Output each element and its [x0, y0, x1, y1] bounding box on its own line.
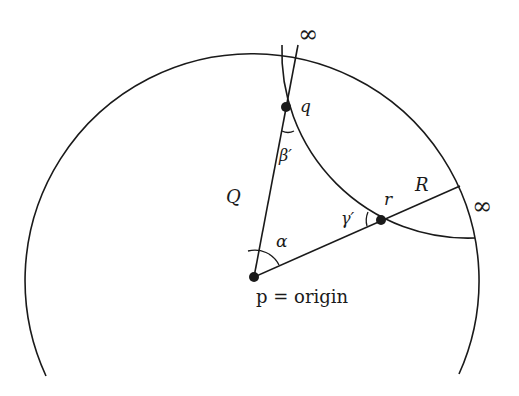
angle-beta-prime-mark: [282, 131, 294, 133]
label-r: r: [384, 189, 393, 209]
label-R: R: [414, 174, 429, 195]
point-r: [376, 215, 386, 225]
label-gamma-prime: γ′: [341, 209, 355, 228]
label-infinity-right: ∞: [472, 192, 492, 220]
label-alpha: α: [276, 231, 288, 251]
point-q: [281, 102, 291, 112]
geodesic-qr-arc: [282, 45, 475, 238]
label-p-origin: p = origin: [256, 286, 349, 307]
label-q: q: [300, 96, 311, 116]
point-p: [249, 272, 259, 282]
angle-gamma-prime-mark: [366, 212, 368, 226]
label-Q: Q: [226, 186, 241, 207]
angle-alpha-mark: [248, 250, 279, 265]
label-beta-prime: β′: [278, 146, 292, 165]
label-infinity-top: ∞: [298, 20, 318, 48]
poincare-disk-diagram: ∞ ∞ q β′ Q R r γ′ α p = origin: [0, 0, 519, 396]
disk-boundary: [25, 54, 479, 376]
